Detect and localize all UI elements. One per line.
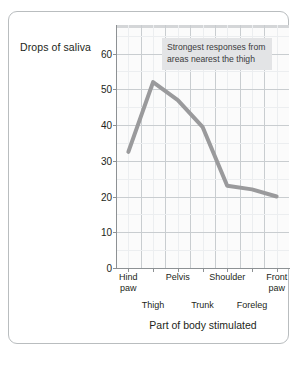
- x-tick-label: Shoulder: [209, 272, 245, 283]
- y-tick-mark: [113, 89, 117, 90]
- x-axis-labels-lower: ThighTrunkForeleg: [116, 300, 290, 314]
- series-polyline: [128, 82, 276, 196]
- x-tick-label: Foreleg: [237, 300, 268, 311]
- y-tick-mark: [113, 197, 117, 198]
- y-tick-mark: [113, 125, 117, 126]
- x-tick-label: Front paw: [266, 272, 287, 294]
- y-tick-label: 0: [90, 263, 112, 274]
- y-tick-mark: [113, 161, 117, 162]
- y-tick-label: 40: [90, 120, 112, 131]
- x-tick-mark: [153, 268, 154, 272]
- chart-figure: Drops of saliva 0102030405060 Strongest …: [0, 0, 306, 365]
- x-tick-label: Hind paw: [119, 272, 138, 294]
- y-axis-title: Drops of saliva: [20, 41, 91, 53]
- x-axis-title: Part of body stimulated: [116, 319, 290, 331]
- x-axis-labels-upper: Hind pawPelvisShoulderFront paw: [116, 272, 290, 298]
- x-tick-label: Trunk: [191, 300, 214, 311]
- x-tick-mark: [277, 268, 278, 272]
- x-tick-mark: [227, 268, 228, 272]
- y-tick-label: 30: [90, 155, 112, 166]
- x-tick-label: Thigh: [142, 300, 165, 311]
- y-tick-mark: [113, 268, 117, 269]
- y-tick-label: 20: [90, 191, 112, 202]
- x-tick-label: Pelvis: [166, 272, 190, 283]
- y-tick-label: 60: [90, 48, 112, 59]
- y-tick-mark: [113, 54, 117, 55]
- y-tick-label: 50: [90, 84, 112, 95]
- x-tick-mark: [252, 268, 253, 272]
- x-tick-mark: [203, 268, 204, 272]
- y-tick-label: 10: [90, 227, 112, 238]
- x-tick-mark: [178, 268, 179, 272]
- annotation-callout: Strongest responses from areas nearest t…: [162, 38, 272, 70]
- x-tick-mark: [128, 268, 129, 272]
- y-axis-tick-labels: 0102030405060: [88, 25, 112, 268]
- y-tick-mark: [113, 232, 117, 233]
